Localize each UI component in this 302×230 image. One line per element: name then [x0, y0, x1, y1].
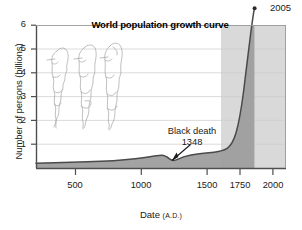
- chart-canvas: [0, 0, 302, 230]
- annotation-black-death-line2: 1348: [161, 137, 223, 148]
- population-growth-chart: World population growth curve 1 2 3 4 5 …: [0, 0, 302, 230]
- y-axis-title: Number of persons (billions): [13, 22, 24, 182]
- xtick-label-1500: 1500: [190, 180, 224, 190]
- annotation-black-death-line1: Black death: [161, 126, 223, 137]
- xtick-label-1000: 1000: [124, 180, 158, 190]
- annotation-endpoint-2005: 2005: [270, 2, 291, 13]
- x-axis-title-main: Date: [140, 209, 160, 220]
- xtick-label-1750: 1750: [223, 180, 257, 190]
- x-axis-title-era: (A.D.): [163, 212, 182, 219]
- xtick-label-2000: 2000: [256, 180, 290, 190]
- chart-title: World population growth curve: [60, 19, 260, 30]
- endpoint-marker-2005: [253, 6, 257, 10]
- annotation-black-death: Black death 1348: [161, 126, 223, 148]
- y-axis-ticks: [31, 25, 36, 144]
- x-axis-ticks: [76, 169, 273, 175]
- xtick-label-500: 500: [58, 180, 92, 190]
- x-axis-title: Date (A.D.): [36, 209, 286, 220]
